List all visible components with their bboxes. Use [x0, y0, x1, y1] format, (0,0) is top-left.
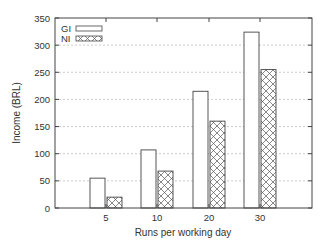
bar-gi-30: [244, 32, 259, 208]
bar-ni-10: [158, 171, 173, 208]
y-tick-label: 300: [34, 40, 50, 51]
legend-label: NI: [61, 33, 71, 44]
y-tick-label: 350: [34, 13, 50, 24]
x-axis-label: Runs per working day: [135, 227, 232, 238]
x-tick-label: 5: [103, 212, 108, 223]
y-tick-label: 200: [34, 94, 50, 105]
legend: GINI: [61, 23, 102, 44]
bar-ni-5: [107, 197, 122, 208]
bar-ni-20: [210, 121, 225, 208]
bars: [90, 32, 276, 208]
bar-gi-10: [141, 150, 156, 208]
y-tick-label: 100: [34, 148, 50, 159]
y-tick-label: 150: [34, 121, 50, 132]
bar-chart: 050100150200250300350 5102030 GINI Runs …: [0, 0, 327, 251]
y-axis-label: Income (BRL): [11, 82, 22, 144]
y-tick-label: 0: [45, 203, 50, 214]
y-tick-label: 250: [34, 67, 50, 78]
x-tick-label: 30: [255, 212, 266, 223]
x-tick-label: 10: [152, 212, 163, 223]
bar-gi-5: [90, 178, 105, 208]
y-tick-label: 50: [39, 175, 50, 186]
legend-swatch: [76, 26, 102, 31]
x-axis: 5102030: [103, 18, 265, 223]
bar-ni-30: [261, 70, 276, 208]
legend-swatch: [76, 36, 102, 41]
x-tick-label: 20: [204, 212, 215, 223]
bar-gi-20: [193, 91, 208, 208]
